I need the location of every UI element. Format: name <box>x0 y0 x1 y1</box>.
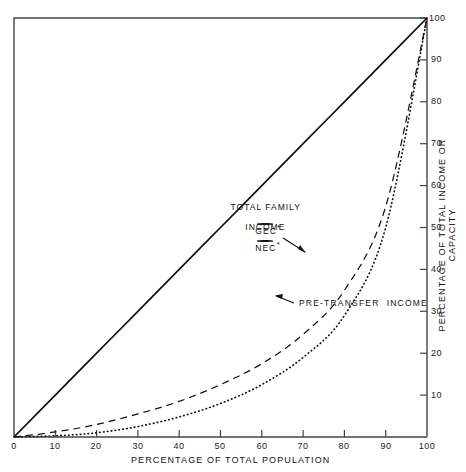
x-tick-label-40: 40 <box>169 441 189 451</box>
x-tick-label-100: 100 <box>414 441 440 451</box>
figure-background <box>0 0 466 472</box>
x-tick-label-80: 80 <box>334 441 354 451</box>
x-tick-label-50: 50 <box>210 441 230 451</box>
y-axis-title: PERCENTAGE OF TOTAL INCOME OR CAPACITY <box>437 120 457 350</box>
x-tick-label-20: 20 <box>86 441 106 451</box>
lorenz-curve-figure <box>0 0 466 472</box>
x-tick-label-30: 30 <box>128 441 148 451</box>
y-tick-label-80: 80 <box>431 96 442 106</box>
y-tick-label-100: 100 <box>429 13 446 23</box>
annotation-nec: NEC* <box>248 230 280 253</box>
annotation-nec-marker: * <box>277 240 280 249</box>
x-tick-label-90: 90 <box>376 441 396 451</box>
y-tick-label-10: 10 <box>431 390 442 400</box>
annotation-nec-text: NEC <box>255 243 277 253</box>
y-tick-label-90: 90 <box>431 54 442 64</box>
annotation-total-family-income-line1: TOTAL FAMILY <box>231 202 301 212</box>
x-tick-label-70: 70 <box>293 441 313 451</box>
y-axis-title-wrapper: PERCENTAGE OF TOTAL INCOME OR CAPACITY <box>437 120 451 350</box>
x-tick-label-10: 10 <box>45 441 65 451</box>
x-tick-label-60: 60 <box>252 441 272 451</box>
x-axis-title: PERCENTAGE OF TOTAL POPULATION <box>131 455 330 465</box>
x-tick-label-0: 0 <box>4 441 24 451</box>
annotation-pre-transfer-income: PRE-TRANSFER INCOME <box>299 298 428 308</box>
